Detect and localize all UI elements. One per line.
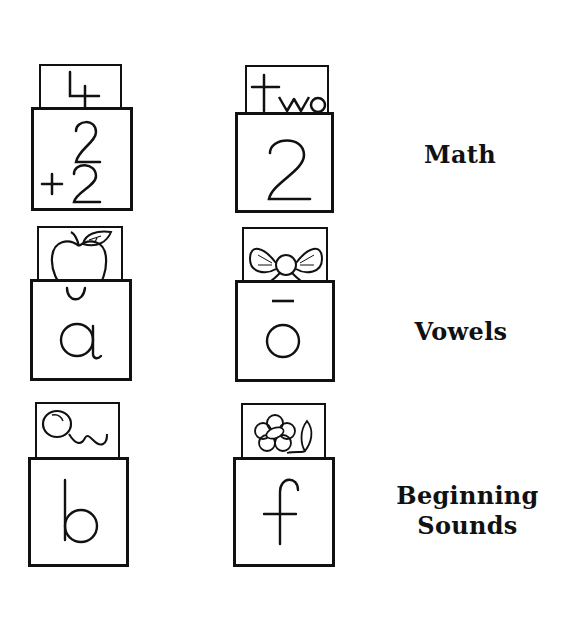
category-label-line-1: Beginning: [380, 481, 555, 511]
balloon-icon: [37, 404, 118, 460]
category-label-beginning-sounds: Beginning Sounds: [380, 481, 555, 541]
number-two: [238, 115, 331, 210]
category-label-line-2: Sounds: [380, 511, 555, 541]
apple-picture-card: [37, 226, 123, 286]
balloon-picture-card: [35, 402, 120, 462]
letter-b: [31, 460, 126, 564]
number-four-icon: [41, 66, 119, 112]
long-vowel-front: [235, 280, 335, 382]
math-addition-front: [31, 107, 133, 211]
bow-icon: [244, 229, 326, 285]
letter-f: [236, 460, 332, 564]
letter-f-front: [233, 457, 335, 567]
bow-picture-card: [242, 227, 328, 287]
flower-icon: [243, 405, 324, 461]
short-vowel-front: [30, 279, 132, 381]
apple-icon: [39, 228, 121, 284]
category-label-vowels: Vowels: [397, 317, 525, 347]
math-word-card: [245, 65, 329, 115]
letter-b-front: [28, 457, 129, 567]
flower-picture-card: [241, 403, 326, 463]
word-two-icon: [247, 67, 327, 113]
addition-problem: [34, 110, 130, 208]
long-o: [238, 283, 332, 379]
category-label-math: Math: [400, 140, 520, 170]
math-number-front: [235, 112, 334, 213]
short-a: [33, 282, 129, 378]
